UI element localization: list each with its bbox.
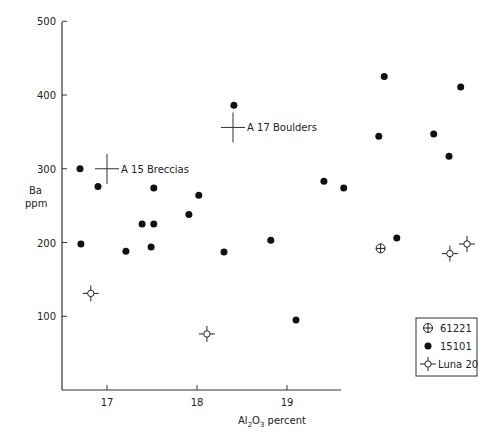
point-luna20 bbox=[459, 236, 475, 252]
y-tick-label: 200 bbox=[37, 238, 56, 249]
point-15101 bbox=[267, 237, 274, 244]
point-15101 bbox=[375, 133, 382, 140]
point-15101 bbox=[340, 184, 347, 191]
y-tick-label: 300 bbox=[37, 164, 56, 175]
point-15101 bbox=[320, 178, 327, 185]
point-15101 bbox=[457, 83, 464, 90]
x-tick-label: 17 bbox=[101, 397, 114, 408]
annotation-cross: A 15 Breccias bbox=[95, 154, 189, 184]
y-axis-label-line2: ppm bbox=[25, 198, 47, 209]
point-15101 bbox=[221, 249, 228, 256]
point-15101 bbox=[77, 240, 84, 247]
y-tick-label: 100 bbox=[37, 311, 56, 322]
point-15101 bbox=[195, 192, 202, 199]
point-15101 bbox=[122, 248, 129, 255]
legend-label-luna20: Luna 20 bbox=[438, 359, 478, 370]
point-15101 bbox=[293, 316, 300, 323]
legend-label-61221: 61221 bbox=[440, 323, 472, 334]
annotation-label: A 15 Breccias bbox=[121, 164, 189, 175]
y-axis-label-line1: Ba bbox=[29, 185, 42, 196]
point-15101 bbox=[77, 165, 84, 172]
point-15101 bbox=[150, 184, 157, 191]
point-15101 bbox=[430, 131, 437, 138]
point-15101 bbox=[230, 102, 237, 109]
legend-label-15101: 15101 bbox=[440, 341, 472, 352]
legend: 61221 15101 Luna 20 bbox=[416, 318, 478, 376]
legend-15101-icon bbox=[425, 343, 432, 350]
annotations: A 15 BrecciasA 17 Boulders bbox=[95, 112, 317, 183]
point-luna20 bbox=[83, 285, 99, 301]
annotation-cross: A 17 Boulders bbox=[221, 112, 317, 142]
x-tick-label: 18 bbox=[191, 397, 204, 408]
point-15101 bbox=[150, 221, 157, 228]
data-points bbox=[77, 73, 476, 342]
y-tick-label: 400 bbox=[37, 90, 56, 101]
x-axis-label: Al2O3 percent bbox=[238, 415, 306, 429]
point-15101 bbox=[148, 243, 155, 250]
x-tick-label: 19 bbox=[281, 397, 294, 408]
point-15101 bbox=[95, 183, 102, 190]
point-15101 bbox=[139, 221, 146, 228]
point-luna20 bbox=[442, 246, 458, 262]
y-tick-label: 500 bbox=[37, 16, 56, 27]
point-15101 bbox=[185, 211, 192, 218]
point-15101 bbox=[381, 73, 388, 80]
point-15101 bbox=[446, 153, 453, 160]
scatter-chart: 100200300400500171819 A 15 BrecciasA 17 … bbox=[0, 0, 494, 446]
annotation-label: A 17 Boulders bbox=[247, 122, 317, 133]
point-15101 bbox=[393, 235, 400, 242]
point-luna20 bbox=[199, 326, 215, 342]
point-61221 bbox=[376, 244, 385, 253]
legend-61221-icon bbox=[424, 324, 433, 333]
